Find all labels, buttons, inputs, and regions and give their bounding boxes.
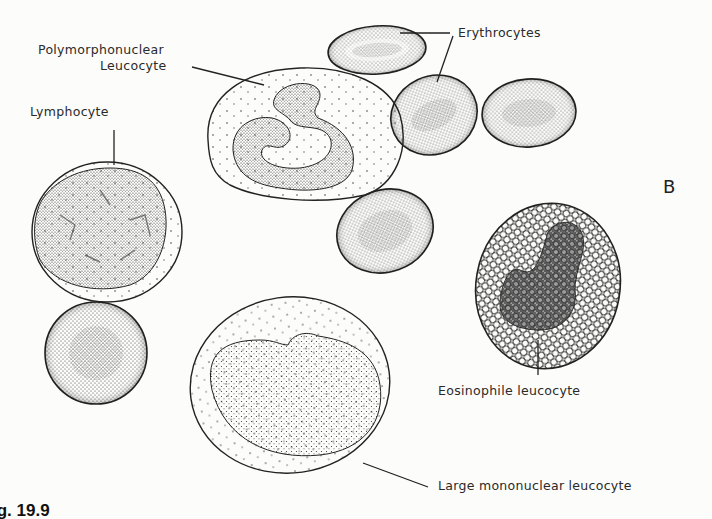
label-lymphocyte: Lymphocyte (30, 104, 109, 119)
leader-line-large-mononuclear (363, 463, 428, 487)
large-mononuclear-leucocyte (179, 284, 402, 486)
label-eosinophile: Eosinophile leucocyte (438, 383, 580, 398)
label-polymorphonuclear-leucocyte: Leucocyte (100, 58, 166, 73)
erythrocyte-3 (480, 76, 579, 150)
panel-letter: B (663, 176, 675, 197)
erythrocyte-5 (45, 302, 147, 404)
label-polymorphonuclear: Polymorphonuclear (38, 42, 164, 57)
cells-illustration (0, 0, 712, 519)
eosinophile-leucocyte (463, 192, 634, 380)
erythrocyte-1 (326, 23, 427, 78)
polymorphonuclear-leucocyte (208, 68, 403, 200)
label-large-mononuclear: Large mononuclear leucocyte (438, 478, 632, 493)
lymphocyte (32, 162, 182, 302)
label-erythrocytes: Erythrocytes (458, 25, 541, 40)
figure-number: ig. 19.9 (0, 501, 50, 519)
blood-cells-figure: Polymorphonuclear Leucocyte Erythrocytes… (0, 0, 712, 519)
